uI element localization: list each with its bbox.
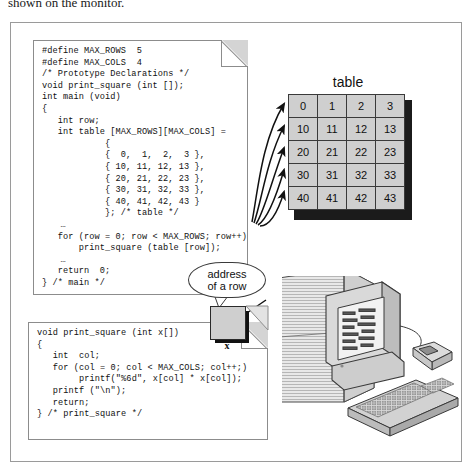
code-line: int row; <box>42 116 243 128</box>
code-line: { 40, 41, 42, 43 } <box>42 197 243 209</box>
desktop-computer-illustration <box>282 276 462 456</box>
computer-monitor <box>326 282 404 390</box>
array-row: 30313233 <box>289 164 405 187</box>
array-cell: 2 <box>347 95 376 118</box>
code-line: } /* print_square */ <box>37 409 263 421</box>
code-line: for (row = 0; row < MAX_ROWS; row++) <box>42 232 243 244</box>
code-main-text: #define MAX_ROWS 5#define MAX_COLS 4/* P… <box>42 46 243 289</box>
parameter-box-label: x <box>210 340 244 351</box>
array-cell: 22 <box>347 141 376 164</box>
array-row: 0123 <box>289 95 405 118</box>
array-cell: 31 <box>318 164 347 187</box>
array-cell: 13 <box>376 118 405 141</box>
code-line: print_square (table [row]); <box>42 243 243 255</box>
array-cell: 10 <box>289 118 318 141</box>
array-cell: 21 <box>318 141 347 164</box>
array-grid: 012310111213202122233031323340414243 <box>288 94 405 210</box>
code-line: #define MAX_ROWS 5 <box>42 46 243 58</box>
array-row: 10111213 <box>289 118 405 141</box>
array-cell: 41 <box>318 187 347 210</box>
code-line: int main (void) <box>42 92 243 104</box>
code-page-main: #define MAX_ROWS 5#define MAX_COLS 4/* P… <box>33 40 248 295</box>
code-line: { 0, 1, 2, 3 }, <box>42 150 243 162</box>
code-line: int table [MAX_ROWS][MAX_COLS] = <box>42 127 243 139</box>
callout-address-of-a-row: address of a row <box>188 262 266 298</box>
code-line: { <box>42 139 243 151</box>
callout-line-1: address <box>207 268 246 280</box>
figure-caption: shown on the monitor. <box>8 0 248 11</box>
code-line: int col; <box>37 351 263 363</box>
array-row: 40414243 <box>289 187 405 210</box>
table-label: table <box>288 74 408 90</box>
code-line: #define MAX_COLS 4 <box>42 58 243 70</box>
array-row: 20212223 <box>289 141 405 164</box>
code-line: { <box>42 104 243 116</box>
array-cell: 3 <box>376 95 405 118</box>
code-line: { 20, 21, 22, 23 }, <box>42 174 243 186</box>
array-grid-body: 012310111213202122233031323340414243 <box>289 95 405 210</box>
code-line: printf("%6d", x[col] * x[col]); <box>37 374 263 386</box>
table-array-diagram: 012310111213202122233031323340414243 <box>288 94 405 210</box>
code-line: … <box>42 220 243 232</box>
array-cell: 1 <box>318 95 347 118</box>
array-cell: 33 <box>376 164 405 187</box>
array-cell: 23 <box>376 141 405 164</box>
code-line: { 10, 11, 12, 13 }, <box>42 162 243 174</box>
array-cell: 30 <box>289 164 318 187</box>
array-cell: 32 <box>347 164 376 187</box>
code-line: { 30, 31, 32, 33 }, <box>42 185 243 197</box>
array-cell: 20 <box>289 141 318 164</box>
array-cell: 42 <box>347 187 376 210</box>
code-line: printf ("\n"); <box>37 386 263 398</box>
code-line: void print_square (int []); <box>42 81 243 93</box>
array-cell: 43 <box>376 187 405 210</box>
callout-line-2: of a row <box>207 280 246 292</box>
code-line: }; /* table */ <box>42 208 243 220</box>
array-cell: 11 <box>318 118 347 141</box>
code-line: for (col = 0; col < MAX_COLS; col++;) <box>37 363 263 375</box>
parameter-box <box>210 306 246 340</box>
code-line: /* Prototype Declarations */ <box>42 69 243 81</box>
computer-mouse <box>400 326 452 370</box>
code-line: return; <box>37 398 263 410</box>
array-cell: 40 <box>289 187 318 210</box>
array-cell: 12 <box>347 118 376 141</box>
array-cell: 0 <box>289 95 318 118</box>
